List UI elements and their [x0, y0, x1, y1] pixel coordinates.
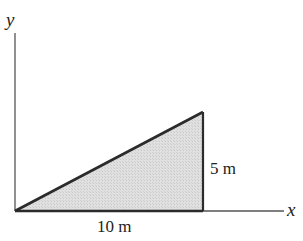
height-dimension-label: 5 m [210, 160, 236, 177]
base-dimension-label: 10 m [97, 218, 131, 235]
x-axis-label: x [287, 200, 295, 219]
diagram-canvas: y x 5 m 10 m [0, 0, 303, 241]
y-axis-label: y [6, 10, 14, 29]
diagram-graphic [0, 0, 303, 241]
